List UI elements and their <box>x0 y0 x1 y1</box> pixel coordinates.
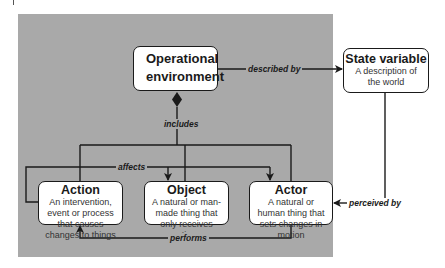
node-title: State variable <box>344 52 428 66</box>
edge-label-perceived-by: perceived by <box>347 198 403 208</box>
edge-label-performs: performs <box>168 233 209 243</box>
node-title: Actor <box>250 183 332 197</box>
node-title: Object <box>145 183 228 197</box>
edge-label-includes: includes <box>162 119 200 129</box>
node-description: An intervention, event or process that c… <box>39 197 122 241</box>
node-description: A description of the world <box>344 66 428 88</box>
node-title: Operational environment <box>134 47 217 86</box>
node-title: Action <box>39 183 122 197</box>
node-object[interactable]: Object A natural or man-made thing that … <box>144 181 229 225</box>
node-actor[interactable]: Actor A natural or human thing that sets… <box>249 181 333 225</box>
edge-label-affects: affects <box>116 162 147 172</box>
edge-label-described-by: described by <box>246 64 302 74</box>
composition-diamond-icon <box>172 92 182 107</box>
node-description: A natural or human thing that sets chang… <box>250 197 332 241</box>
node-operational-environment[interactable]: Operational environment <box>133 46 218 91</box>
node-action[interactable]: Action An intervention, event or process… <box>38 181 123 225</box>
node-state-variable[interactable]: State variable A description of the worl… <box>343 48 429 93</box>
